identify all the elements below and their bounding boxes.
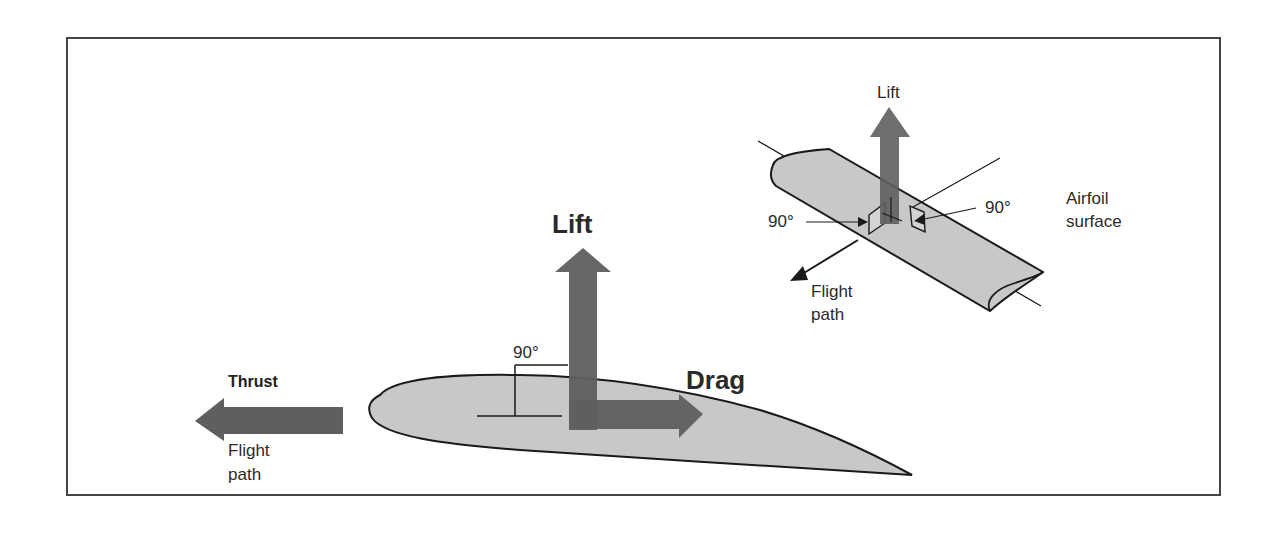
airfoil-surface-label-line2: surface — [1066, 213, 1122, 230]
inset-flight-path-label-line1: Flight — [811, 283, 853, 300]
angle-label: 90° — [513, 344, 539, 361]
inset-angle-label-left: 90° — [768, 213, 794, 230]
lift-drag-diagram — [0, 0, 1284, 549]
inset-lift-label: Lift — [877, 84, 900, 101]
inset-angle-label-right: 90° — [985, 199, 1011, 216]
thrust-label: Thrust — [228, 374, 278, 390]
inset-flight-path-arrowhead — [790, 266, 808, 281]
drag-label: Drag — [686, 367, 745, 393]
lift-label: Lift — [552, 211, 592, 237]
inset-flight-path-label-line2: path — [811, 306, 844, 323]
airfoil-surface-label-line1: Airfoil — [1066, 190, 1109, 207]
flight-path-label-line1: Flight — [228, 442, 270, 459]
thrust-arrow — [195, 398, 343, 441]
inset-flight-path-line — [799, 240, 858, 276]
flight-path-label-line2: path — [228, 466, 261, 483]
